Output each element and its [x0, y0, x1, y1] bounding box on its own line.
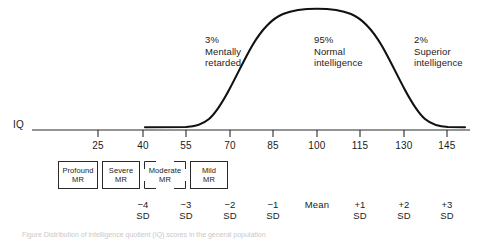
mr-box-line2: MR [115, 175, 127, 184]
sd-label-plus-1: +1 SD [337, 199, 383, 221]
mr-box-mild: Mild MR [190, 161, 228, 189]
mr-box-line1: Profound [62, 166, 93, 175]
sd-label-plus-3: +3 SD [424, 199, 470, 221]
sd-label-plus-2: +2 SD [381, 199, 427, 221]
sd-value: −3 [163, 199, 209, 210]
sd-unit: SD [424, 210, 470, 221]
mr-box-profound: Profound MR [58, 161, 98, 189]
axis-label-iq: IQ [13, 119, 24, 131]
tick-label-55: 55 [166, 140, 206, 152]
tick-label-40: 40 [123, 140, 163, 152]
tick-label-130: 130 [384, 140, 424, 152]
sd-label-minus-3: −3 SD [163, 199, 209, 221]
sd-value: +2 [381, 199, 427, 210]
sd-unit: SD [120, 210, 166, 221]
x-axis-ticks [98, 130, 447, 137]
sd-label-mean: Mean [294, 199, 340, 210]
sd-value: −4 [120, 199, 166, 210]
sd-value: −1 [250, 199, 296, 210]
mr-box-line1: Severe [109, 166, 133, 175]
tick-label-70: 70 [210, 140, 250, 152]
sd-label-minus-4: −4 SD [120, 199, 166, 221]
tick-label-145: 145 [427, 140, 467, 152]
sd-unit: SD [250, 210, 296, 221]
tick-label-85: 85 [253, 140, 293, 152]
tick-label-25: 25 [78, 140, 118, 152]
sd-unit: SD [163, 210, 209, 221]
sd-label-minus-1: −1 SD [250, 199, 296, 221]
iq-distribution-figure: 3% Mentally retarded 95% Normal intellig… [0, 0, 489, 241]
mr-box-line2: MR [72, 175, 84, 184]
sd-value: +3 [424, 199, 470, 210]
sd-unit: SD [381, 210, 427, 221]
tick-label-100: 100 [297, 140, 337, 152]
sd-unit: SD [207, 210, 253, 221]
sd-value: Mean [294, 199, 340, 210]
tick-label-115: 115 [340, 140, 380, 152]
mr-box-line1: Moderate [149, 166, 182, 175]
figure-caption: Figure Distribution of intelligence quot… [22, 231, 472, 239]
bell-curve [145, 9, 465, 127]
mr-box-line1: Mild [202, 166, 216, 175]
sd-value: −2 [207, 199, 253, 210]
sd-value: +1 [337, 199, 383, 210]
mr-box-severe: Severe MR [102, 161, 140, 189]
sd-label-minus-2: −2 SD [207, 199, 253, 221]
sd-unit: SD [337, 210, 383, 221]
mr-box-line2: MR [203, 175, 215, 184]
mr-box-line2: MR [159, 175, 171, 184]
mr-box-moderate: Moderate MR [144, 161, 186, 189]
